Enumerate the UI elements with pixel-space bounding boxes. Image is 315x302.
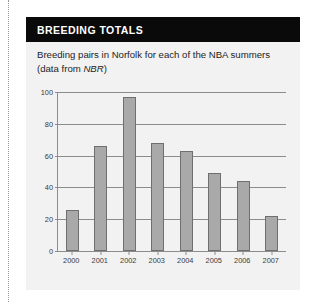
y-tick-label-40: 40 bbox=[45, 183, 53, 192]
x-axis-label-2004: 2004 bbox=[171, 256, 200, 265]
x-axis-label-2000: 2000 bbox=[57, 256, 86, 265]
x-tick-mark-2007 bbox=[271, 251, 272, 255]
panel-header: BREEDING TOTALS bbox=[26, 17, 300, 42]
y-tick-label-60: 60 bbox=[45, 151, 53, 160]
chart-subtitle-source-prefix: (data from bbox=[37, 63, 83, 74]
bar-2002 bbox=[123, 97, 136, 251]
x-tick-mark-2003 bbox=[157, 251, 158, 255]
y-tick-label-100: 100 bbox=[41, 88, 53, 97]
y-tick-label-0: 0 bbox=[49, 247, 53, 256]
bar-series bbox=[58, 92, 286, 251]
y-tick-label-20: 20 bbox=[45, 215, 53, 224]
y-tick-mark-0 bbox=[55, 251, 58, 252]
x-axis-label-2005: 2005 bbox=[200, 256, 229, 265]
bar-slot bbox=[258, 92, 287, 251]
x-tick-mark-2000 bbox=[72, 251, 73, 255]
bar-2001 bbox=[94, 146, 107, 251]
y-tick-label-80: 80 bbox=[45, 119, 53, 128]
bar-2005 bbox=[208, 173, 221, 251]
x-axis-labels: 20002001200220032004200520062007 bbox=[57, 256, 285, 265]
crop-guide-line bbox=[8, 0, 9, 302]
x-axis-label-2002: 2002 bbox=[114, 256, 143, 265]
bar-2004 bbox=[180, 151, 193, 251]
x-tick-mark-2004 bbox=[186, 251, 187, 255]
chart-subtitle-line-1: Breeding pairs in Norfolk for each of th… bbox=[37, 49, 270, 60]
x-axis-label-2003: 2003 bbox=[143, 256, 172, 265]
x-tick-mark-2005 bbox=[214, 251, 215, 255]
bar-slot bbox=[201, 92, 230, 251]
bar-2000 bbox=[66, 210, 79, 251]
x-axis-label-2007: 2007 bbox=[257, 256, 286, 265]
page-title: BREEDING TOTALS bbox=[26, 24, 143, 36]
x-axis-label-2001: 2001 bbox=[86, 256, 115, 265]
chart-subtitle-source-suffix: ) bbox=[104, 63, 107, 74]
bar-2003 bbox=[151, 143, 164, 251]
bar-slot bbox=[144, 92, 173, 251]
breeding-pairs-bar-chart: 020406080100 200020012002200320042005200… bbox=[37, 87, 293, 280]
bar-slot bbox=[172, 92, 201, 251]
x-tick-mark-2001 bbox=[100, 251, 101, 255]
plot-area: 020406080100 bbox=[57, 92, 286, 252]
x-tick-mark-2002 bbox=[129, 251, 130, 255]
bar-slot bbox=[58, 92, 87, 251]
x-axis-label-2006: 2006 bbox=[228, 256, 257, 265]
bar-slot bbox=[115, 92, 144, 251]
bar-slot bbox=[87, 92, 116, 251]
breeding-totals-panel: BREEDING TOTALS Breeding pairs in Norfol… bbox=[26, 17, 300, 290]
bar-slot bbox=[229, 92, 258, 251]
x-tick-mark-2006 bbox=[243, 251, 244, 255]
chart-subtitle: Breeding pairs in Norfolk for each of th… bbox=[37, 48, 289, 75]
bar-2006 bbox=[237, 181, 250, 251]
bar-2007 bbox=[265, 216, 278, 251]
chart-subtitle-source: NBR bbox=[83, 63, 103, 74]
